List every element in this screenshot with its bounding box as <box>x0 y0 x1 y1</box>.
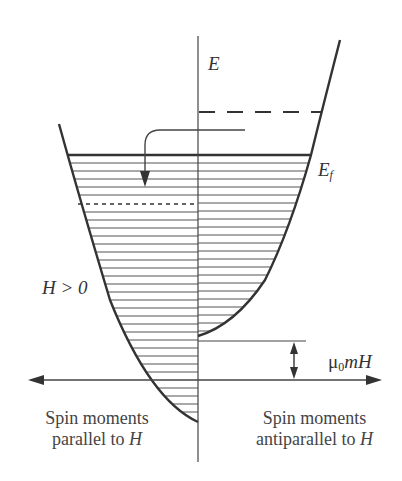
right-caption: Spin moments antiparallel to H <box>232 408 397 450</box>
left-caption-line2: parallel to H <box>22 429 172 450</box>
zeeman-arrowhead-up-icon <box>290 342 298 354</box>
zeeman-arrowhead-down-icon <box>290 367 298 379</box>
right-band-hatching <box>198 163 340 331</box>
fermi-level-label: Ef <box>318 160 333 181</box>
left-arrowhead-icon <box>28 375 44 385</box>
right-arrowhead-icon <box>366 375 382 385</box>
right-caption-line2: antiparallel to H <box>232 429 397 450</box>
left-caption-line1: Spin moments <box>22 408 172 429</box>
right-caption-var: H <box>360 429 373 449</box>
right-caption-prefix: antiparallel to <box>256 429 360 449</box>
zeeman-shift-label: μ0mH <box>328 352 372 373</box>
left-caption-prefix: parallel to <box>52 429 129 449</box>
field-condition-text: H > 0 <box>42 277 88 298</box>
left-caption: Spin moments parallel to H <box>22 408 172 450</box>
zeeman-mu: μ <box>328 351 338 372</box>
field-condition-label: H > 0 <box>42 278 88 297</box>
right-band-curve <box>198 40 340 336</box>
zeeman-mh: mH <box>344 351 371 372</box>
fermi-level-subscript: f <box>330 168 333 182</box>
spin-flip-arrow <box>145 130 245 175</box>
right-caption-line1: Spin moments <box>232 408 397 429</box>
energy-axis-label: E <box>208 54 220 73</box>
left-caption-var: H <box>129 429 142 449</box>
left-band-curve <box>59 124 198 422</box>
fermi-level-symbol: E <box>318 159 330 180</box>
